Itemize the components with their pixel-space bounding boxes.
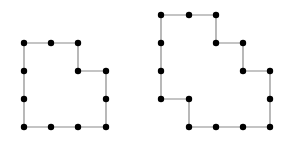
grid-dot <box>21 40 27 46</box>
grid-dot <box>21 124 27 130</box>
polygon-outline <box>161 15 270 127</box>
grid-dot <box>213 40 219 46</box>
grid-dot <box>75 124 81 130</box>
grid-dot <box>48 124 54 130</box>
grid-dot <box>267 124 273 130</box>
grid-dot <box>158 96 164 102</box>
grid-dot <box>240 124 246 130</box>
grid-dot <box>21 68 27 74</box>
grid-dot <box>103 96 109 102</box>
grid-dot <box>75 40 81 46</box>
grid-dot <box>186 96 192 102</box>
grid-dot <box>267 96 273 102</box>
grid-dot <box>21 96 27 102</box>
grid-dot <box>186 124 192 130</box>
grid-dot <box>240 68 246 74</box>
grid-dot <box>158 40 164 46</box>
grid-dot <box>158 12 164 18</box>
grid-dot <box>103 68 109 74</box>
grid-dot <box>158 68 164 74</box>
grid-dot <box>186 12 192 18</box>
grid-dot <box>213 124 219 130</box>
grid-dot <box>267 68 273 74</box>
right-polygon <box>158 12 273 130</box>
grid-dot <box>75 68 81 74</box>
grid-dot <box>103 124 109 130</box>
grid-dot <box>213 12 219 18</box>
polygon-diagram <box>0 0 291 141</box>
polygon-outline <box>24 43 106 127</box>
grid-dot <box>48 40 54 46</box>
left-polygon <box>21 40 109 130</box>
grid-dot <box>240 40 246 46</box>
